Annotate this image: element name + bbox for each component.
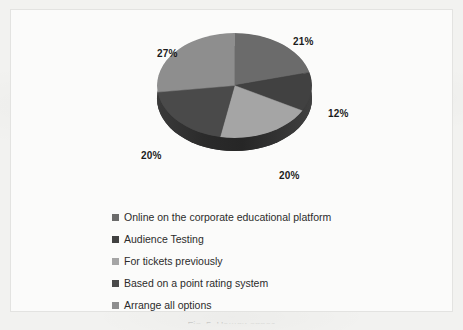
figure-caption-text: Fig. 5. Нашли опрос xyxy=(187,319,275,330)
legend-item: Based on a point rating system xyxy=(112,272,442,294)
legend-swatch-icon xyxy=(112,258,119,265)
legend-item: Arrange all options xyxy=(112,294,442,316)
slice-label-4: 20% xyxy=(141,150,162,161)
legend-item: For tickets previously xyxy=(112,250,442,272)
legend-swatch-icon xyxy=(112,280,119,287)
legend-item-label: Online on the corporate educational plat… xyxy=(124,212,331,223)
pie-plot-area: 21% 12% 20% 20% 27% xyxy=(11,10,454,200)
legend-item: Online on the corporate educational plat… xyxy=(112,206,442,228)
slice-label-1: 21% xyxy=(293,36,314,47)
slice-label-3: 20% xyxy=(279,170,300,181)
pie-top-face xyxy=(157,33,312,138)
legend-swatch-icon xyxy=(112,214,119,221)
legend-swatch-icon xyxy=(112,236,119,243)
legend-item-label: Audience Testing xyxy=(124,234,204,245)
slice-label-5: 27% xyxy=(157,48,178,59)
pie-slices-svg xyxy=(157,33,312,138)
legend-item: Audience Testing xyxy=(112,228,442,250)
figure-caption: Fig. 5. Нашли опрос xyxy=(0,319,463,330)
legend-swatch-icon xyxy=(112,302,119,309)
legend-item-label: For tickets previously xyxy=(124,256,223,267)
legend-item-label: Based on a point rating system xyxy=(124,278,268,289)
legend-item-label: Arrange all options xyxy=(124,300,212,311)
pie-chart xyxy=(157,30,312,170)
pie-slice xyxy=(157,33,235,92)
chart-frame: 21% 12% 20% 20% 27% Online on the corpor… xyxy=(10,9,453,312)
chart-legend: Online on the corporate educational plat… xyxy=(112,206,442,316)
slice-label-2: 12% xyxy=(328,108,349,119)
